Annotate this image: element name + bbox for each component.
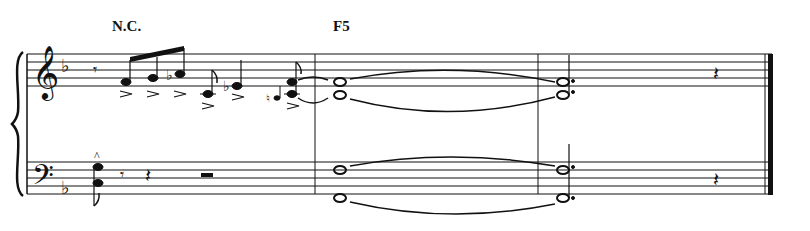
flat-icon: ♭ (61, 178, 69, 198)
svg-text:♮: ♮ (266, 92, 270, 104)
svg-text:♭: ♭ (166, 68, 173, 83)
marcato-icon: ^ (94, 149, 100, 163)
treble-clef-icon: 𝄞 (32, 45, 59, 101)
bass-clef-icon: 𝄢 (32, 158, 54, 198)
music-score: 𝄞 𝄢 ♭ ♭ 𝄾 ♭ ♭ ♮ (0, 0, 810, 231)
final-barline (768, 54, 773, 195)
eighth-rest-icon: 𝄾 (93, 61, 97, 78)
half-rest-icon (201, 173, 213, 177)
flat-icon: ♭ (61, 56, 69, 76)
svg-text:♭: ♭ (223, 79, 230, 94)
svg-text:𝄾: 𝄾 (120, 166, 124, 183)
brace-icon (12, 52, 23, 196)
quarter-rest-icon: 𝄽 (713, 62, 719, 84)
svg-text:𝄽: 𝄽 (145, 164, 151, 186)
svg-text:𝄽: 𝄽 (713, 168, 719, 190)
